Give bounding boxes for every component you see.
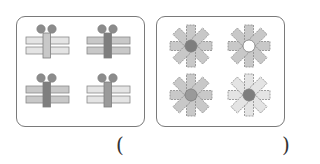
gift-figure [26,25,69,58]
flower-figure [228,25,270,67]
flower-center-icon [185,89,197,101]
ribbon [43,82,51,107]
dot-icon [98,74,106,82]
flower-center-icon [243,89,255,101]
answer-open-paren: ( [116,135,124,155]
flower-center-icon [243,40,255,52]
gift-figure [26,74,69,107]
dot-icon [37,74,45,82]
flower-center-icon [185,40,197,52]
ribbon [43,33,51,58]
answer-close-paren: ) [282,135,290,155]
flower-figure [228,74,270,116]
dot-icon [48,25,56,33]
answer-blank[interactable] [130,135,280,155]
ribbon [104,82,112,107]
flower-figure [170,74,212,116]
dot-icon [48,74,56,82]
gift-figure [87,25,130,58]
gift-figure [87,74,130,107]
dot-icon [37,25,45,33]
ribbon [104,33,112,58]
dot-icon [98,25,106,33]
dot-icon [109,74,117,82]
dot-icon [109,25,117,33]
flower-figure [170,25,212,67]
